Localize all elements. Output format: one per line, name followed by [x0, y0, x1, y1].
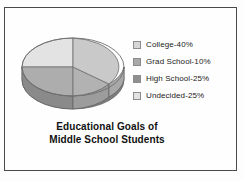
legend-label-undecided: Undecided-25% — [146, 91, 204, 100]
legend-item-grad-school: Grad School-10% — [133, 53, 237, 70]
chart-title-line-2: Middle School Students — [17, 133, 197, 146]
legend-swatch-college — [133, 41, 141, 49]
legend-swatch-grad-school — [133, 58, 141, 66]
legend-label-grad-school: Grad School-10% — [146, 57, 211, 66]
chart-legend: College-40% Grad School-10% High School-… — [133, 36, 237, 104]
legend-label-college: College-40% — [146, 40, 193, 49]
legend-swatch-high-school — [133, 75, 141, 83]
chart-title: Educational Goals of Middle School Stude… — [17, 120, 197, 146]
legend-item-college: College-40% — [133, 36, 237, 53]
legend-item-high-school: High School-25% — [133, 70, 237, 87]
pie-chart — [19, 34, 127, 116]
legend-item-undecided: Undecided-25% — [133, 87, 237, 104]
pie-slice-undecided — [22, 38, 73, 67]
chart-screenshot: College-40% Grad School-10% High School-… — [0, 0, 244, 181]
chart-frame-border: College-40% Grad School-10% High School-… — [4, 7, 237, 171]
legend-label-high-school: High School-25% — [146, 74, 209, 83]
pie-chart-svg — [19, 34, 127, 116]
legend-swatch-undecided — [133, 92, 141, 100]
chart-title-line-1: Educational Goals of — [17, 120, 197, 133]
